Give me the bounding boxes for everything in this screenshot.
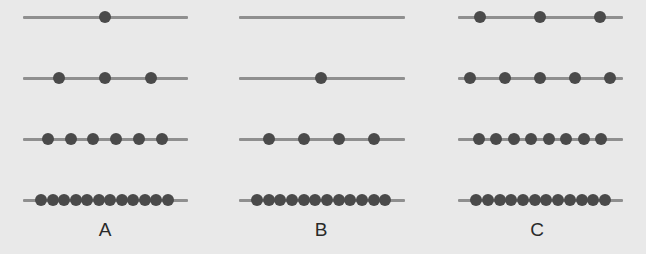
dot bbox=[110, 133, 122, 145]
dot bbox=[599, 194, 611, 206]
dot bbox=[576, 194, 588, 206]
dot bbox=[53, 72, 65, 84]
dot bbox=[315, 72, 327, 84]
dot bbox=[162, 194, 174, 206]
dot bbox=[298, 194, 310, 206]
dot bbox=[65, 133, 77, 145]
dot bbox=[552, 194, 564, 206]
dot bbox=[70, 194, 82, 206]
dot bbox=[379, 194, 391, 206]
dot bbox=[150, 194, 162, 206]
dot bbox=[578, 133, 590, 145]
dot bbox=[263, 133, 275, 145]
dot bbox=[99, 72, 111, 84]
dot bbox=[540, 194, 552, 206]
group-label: B bbox=[306, 220, 336, 240]
dot bbox=[368, 194, 380, 206]
dot-line-diagram: A B C bbox=[0, 0, 646, 254]
dot bbox=[505, 194, 517, 206]
dot bbox=[139, 194, 151, 206]
dot bbox=[333, 133, 345, 145]
dot bbox=[474, 11, 486, 23]
dot bbox=[309, 194, 321, 206]
dot bbox=[525, 133, 537, 145]
dot bbox=[564, 194, 576, 206]
dot bbox=[274, 194, 286, 206]
dot bbox=[116, 194, 128, 206]
dot bbox=[156, 133, 168, 145]
dot bbox=[99, 11, 111, 23]
dot bbox=[145, 72, 157, 84]
dot bbox=[133, 133, 145, 145]
dot bbox=[356, 194, 368, 206]
dot bbox=[594, 11, 606, 23]
dot bbox=[529, 194, 541, 206]
dot bbox=[534, 11, 546, 23]
dot bbox=[482, 194, 494, 206]
dot bbox=[499, 72, 511, 84]
group-label: A bbox=[90, 220, 120, 240]
dot bbox=[508, 133, 520, 145]
dot bbox=[543, 133, 555, 145]
dot bbox=[595, 133, 607, 145]
dot bbox=[286, 194, 298, 206]
dot bbox=[604, 72, 616, 84]
dot bbox=[473, 133, 485, 145]
dot bbox=[93, 194, 105, 206]
dot bbox=[569, 72, 581, 84]
dot bbox=[560, 133, 572, 145]
dot bbox=[87, 133, 99, 145]
dot bbox=[298, 133, 310, 145]
group-label: C bbox=[522, 220, 552, 240]
dot bbox=[35, 194, 47, 206]
dot bbox=[42, 133, 54, 145]
dot bbox=[517, 194, 529, 206]
dot bbox=[464, 72, 476, 84]
dot bbox=[333, 194, 345, 206]
dot bbox=[251, 194, 263, 206]
dot bbox=[263, 194, 275, 206]
dot bbox=[127, 194, 139, 206]
dot bbox=[47, 194, 59, 206]
dot bbox=[344, 194, 356, 206]
dot bbox=[490, 133, 502, 145]
dot bbox=[494, 194, 506, 206]
dot bbox=[470, 194, 482, 206]
dot bbox=[58, 194, 70, 206]
dot bbox=[368, 133, 380, 145]
horizontal-line bbox=[239, 16, 405, 19]
dot bbox=[104, 194, 116, 206]
dot bbox=[534, 72, 546, 84]
dot bbox=[587, 194, 599, 206]
dot bbox=[81, 194, 93, 206]
dot bbox=[321, 194, 333, 206]
